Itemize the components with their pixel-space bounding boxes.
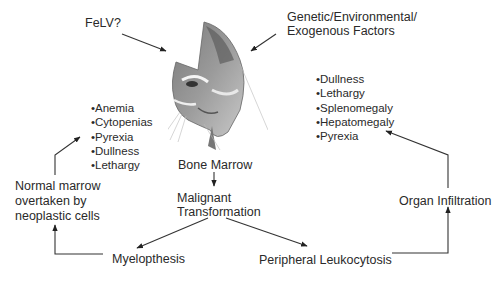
left-clinical-signs: Anemia Cytopenias Pyrexia Dullness Letha… bbox=[91, 101, 153, 172]
normal-marrow-node-line2: overtaken by bbox=[15, 194, 87, 209]
factors-arrow bbox=[251, 34, 276, 51]
list-item: Lethargy bbox=[316, 86, 394, 100]
felv-label: FeLV? bbox=[85, 16, 121, 31]
bone-marrow-node: Bone Marrow bbox=[178, 158, 252, 173]
list-item: Dullness bbox=[316, 72, 394, 86]
list-item: Cytopenias bbox=[91, 115, 153, 129]
list-item: Pyrexia bbox=[91, 130, 153, 144]
factors-label-line1: Genetic/Environmental/ bbox=[287, 10, 417, 25]
myelopthesis-arrow bbox=[137, 218, 208, 248]
list-item: Anemia bbox=[91, 101, 153, 115]
left-signs-arrow bbox=[55, 137, 80, 175]
myelopthesis-node: Myelopthesis bbox=[112, 252, 185, 267]
felv-arrow bbox=[122, 34, 166, 51]
list-item: Hepatomegaly bbox=[316, 115, 394, 129]
organ-infiltration-node: Organ Infiltration bbox=[399, 194, 491, 209]
normal-marrow-node-line1: Normal marrow bbox=[15, 179, 100, 194]
list-item: Dullness bbox=[91, 144, 153, 158]
right-signs-arrow bbox=[386, 131, 448, 188]
right-clinical-signs: Dullness Lethargy Splenomegaly Hepatomeg… bbox=[316, 72, 394, 143]
malignant-node-line1: Malignant bbox=[177, 191, 231, 206]
diagram-connectors bbox=[0, 0, 500, 282]
organ-arrow bbox=[392, 207, 448, 253]
factors-label-line2: Exogenous Factors bbox=[287, 24, 395, 39]
leukocytosis-arrow bbox=[226, 218, 307, 246]
malignant-node-line2: Transformation bbox=[177, 205, 261, 220]
peripheral-leukocytosis-node: Peripheral Leukocytosis bbox=[259, 253, 392, 268]
list-item: Lethargy bbox=[91, 158, 153, 172]
normal-marrow-node-line3: neoplastic cells bbox=[15, 209, 100, 224]
list-item: Splenomegaly bbox=[316, 101, 394, 115]
marrow-arrow bbox=[55, 225, 103, 254]
list-item: Pyrexia bbox=[316, 129, 394, 143]
